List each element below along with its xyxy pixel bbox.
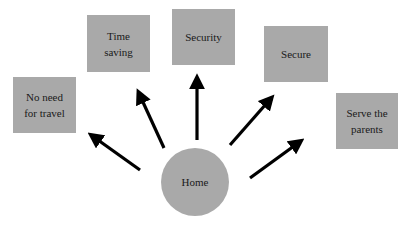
center-node-label: Home xyxy=(182,176,209,188)
node-serve-the-parents: Serve the parents xyxy=(336,93,398,149)
node-no-need-for-travel: No need for travel xyxy=(13,77,76,133)
center-node-home: Home xyxy=(161,148,229,216)
arrow-to-serve-the-parents xyxy=(250,146,294,178)
node-secure: Secure xyxy=(264,26,328,82)
arrow-to-secure xyxy=(230,104,266,145)
arrow-to-time-saving xyxy=(142,100,164,148)
node-time-saving: Time saving xyxy=(87,15,150,72)
arrow-to-no-need-for-travel xyxy=(98,140,140,170)
node-security: Security xyxy=(172,9,235,65)
